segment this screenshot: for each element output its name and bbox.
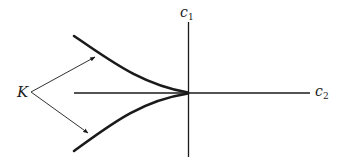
cusp-curve-lower-branch <box>74 94 188 152</box>
curve-label-k: K <box>16 83 29 101</box>
arrow-to-lower-branch <box>31 92 88 133</box>
diagram-canvas: K c 1 c 2 <box>0 0 341 162</box>
axis-label-c2-subscript: 2 <box>323 91 329 101</box>
axis-label-c1: c <box>180 4 188 20</box>
cusp-diagram: K c 1 c 2 <box>0 0 341 162</box>
arrow-to-upper-branch <box>31 57 95 92</box>
cusp-curve-upper-branch <box>74 36 188 93</box>
axis-label-c2: c <box>315 83 323 99</box>
axis-label-c1-subscript: 1 <box>188 12 194 22</box>
